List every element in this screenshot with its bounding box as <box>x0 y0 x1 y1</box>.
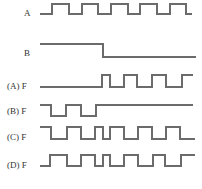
signal-b: B <box>24 44 196 58</box>
signal-a-label: A <box>24 8 31 18</box>
option-d-waveform <box>40 155 195 166</box>
option-d-label: (D) F <box>7 160 27 170</box>
option-a-output-f: (A) F <box>7 75 193 91</box>
option-d-output-f: (D) F <box>7 155 195 170</box>
option-c-waveform <box>40 127 195 139</box>
option-b-output-f: (B) F <box>7 105 193 116</box>
option-b-waveform <box>40 105 193 116</box>
signal-b-label: B <box>24 48 30 58</box>
option-c-label: (C) F <box>7 132 26 142</box>
option-a-waveform <box>40 75 193 87</box>
timing-diagram: A B (A) F (B) F (C) F (D) F <box>0 0 202 189</box>
option-b-label: (B) F <box>7 106 26 116</box>
signal-a-waveform <box>40 4 192 14</box>
signal-a: A <box>24 4 192 18</box>
signal-b-waveform <box>40 44 196 57</box>
option-c-output-f: (C) F <box>7 127 195 142</box>
option-a-label: (A) F <box>7 81 27 91</box>
